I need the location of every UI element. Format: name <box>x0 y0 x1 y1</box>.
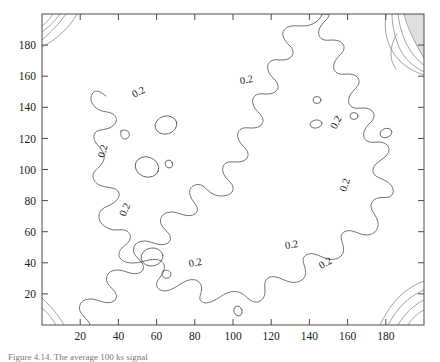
contour-plot-svg: 20 40 60 80 100 120 140 160 180 20 40 60… <box>0 0 440 362</box>
y-tick-label: 180 <box>19 39 37 51</box>
y-tick-label: 160 <box>19 70 37 82</box>
x-axis-tick-labels: 20 40 60 80 100 120 140 160 180 <box>74 330 394 342</box>
x-tick-label: 40 <box>113 330 125 342</box>
x-tick-label: 140 <box>301 330 319 342</box>
x-tick-label: 20 <box>74 330 86 342</box>
figure-caption: Figure 4.14. The average 100 ks signal <box>8 352 148 362</box>
y-tick-label: 40 <box>25 257 37 269</box>
x-tick-label: 60 <box>151 330 163 342</box>
x-tick-label: 120 <box>263 330 281 342</box>
y-axis-tick-labels: 20 40 60 80 100 120 140 160 180 <box>19 39 37 300</box>
y-tick-label: 100 <box>19 164 37 176</box>
x-tick-label: 160 <box>339 330 357 342</box>
x-tick-label: 180 <box>377 330 395 342</box>
y-tick-label: 120 <box>19 133 37 145</box>
y-tick-label: 20 <box>25 288 37 300</box>
contour-figure: 20 40 60 80 100 120 140 160 180 20 40 60… <box>0 0 440 362</box>
y-tick-label: 80 <box>25 195 37 207</box>
x-tick-label: 100 <box>224 330 242 342</box>
contour-label-0p2: 0.2 <box>239 73 254 86</box>
x-tick-label: 80 <box>189 330 201 342</box>
y-tick-label: 60 <box>25 226 37 238</box>
plot-background <box>42 14 424 325</box>
contour-label-0p2: 0.2 <box>284 238 299 251</box>
y-tick-label: 140 <box>19 101 37 113</box>
